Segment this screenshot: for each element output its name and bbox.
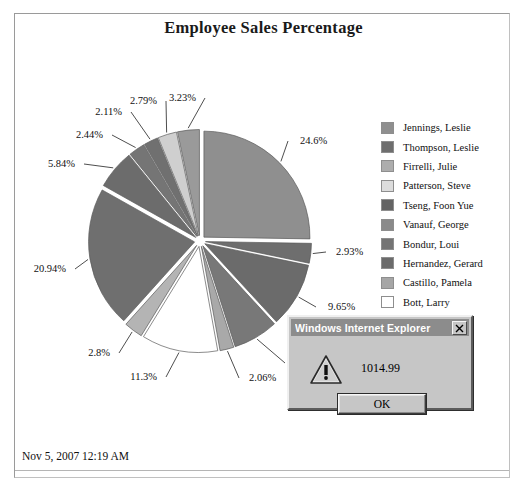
legend-swatch [381,219,394,231]
legend-item[interactable]: Vanauf, George [381,215,503,234]
legend-item-label: Castillo, Pamela [403,277,472,288]
legend-item-label: Firrelli, Julie [403,161,457,172]
legend-item-label: Bondur, Loui [403,239,459,250]
legend-swatch [381,277,394,289]
legend-item-label: Patterson, Steve [403,180,471,191]
close-icon[interactable] [452,321,467,335]
legend-swatch [381,160,394,172]
ok-button[interactable]: OK [338,394,426,414]
legend-item[interactable]: Firrelli, Julie [381,157,503,176]
legend-item-label: Thompson, Leslie [403,142,479,153]
footer-divider [15,470,509,471]
internet-explorer-dialog[interactable]: Windows Internet Explorer 1014.99 OK [287,315,473,410]
legend-item[interactable]: Jennings, Leslie [381,118,503,137]
dialog-body: 1014.99 OK [291,338,469,406]
legend-swatch [381,257,394,269]
legend-item-label: Tseng, Foon Yue [403,200,473,211]
legend-item[interactable]: Bondur, Loui [381,234,503,253]
legend-item[interactable]: Tseng, Foon Yue [381,196,503,215]
legend-swatch [381,122,394,134]
close-x-glyph [455,324,464,333]
legend-item[interactable]: Bott, Larry [381,293,503,312]
legend-swatch [381,238,394,250]
legend-swatch [381,296,394,308]
page-title: Employee Sales Percentage [0,18,527,38]
legend-swatch [381,180,394,192]
legend-swatch [381,141,394,153]
dialog-titlebar[interactable]: Windows Internet Explorer [291,319,469,336]
legend-item[interactable]: Patterson, Steve [381,176,503,195]
legend-item-label: Vanauf, George [403,219,469,230]
legend-item-label: Bott, Larry [403,297,450,308]
dialog-message: 1014.99 [361,361,400,376]
report-timestamp: Nov 5, 2007 12:19 AM [22,450,129,462]
dialog-title: Windows Internet Explorer [295,322,452,334]
legend-swatch [381,199,394,211]
legend-item-label: Hernandez, Gerard [403,258,483,269]
legend-item[interactable]: Castillo, Pamela [381,273,503,292]
warning-triangle-icon [310,355,342,385]
legend-item-label: Jennings, Leslie [403,122,471,133]
legend-item[interactable]: Hernandez, Gerard [381,254,503,273]
legend: Jennings, LeslieThompson, LeslieFirrelli… [381,118,503,331]
legend-item[interactable]: Thompson, Leslie [381,137,503,156]
